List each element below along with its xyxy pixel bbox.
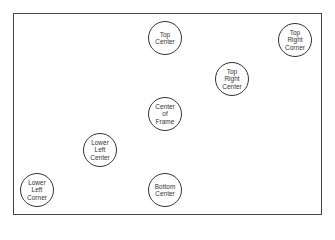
marker-label-line: Center — [155, 38, 175, 46]
marker-lower-left-corner: Lower Left Corner — [20, 173, 54, 207]
marker-label-line: Left — [32, 186, 43, 194]
marker-label-line: Top — [227, 68, 237, 76]
marker-center-of-frame: Center of Frame — [148, 97, 182, 131]
marker-label-line: Frame — [156, 118, 175, 126]
marker-bottom-center: Bottom Center — [148, 173, 182, 207]
marker-label-line: Corner — [27, 194, 47, 202]
marker-label-line: Top — [160, 31, 170, 39]
marker-label-line: Corner — [285, 44, 305, 52]
marker-lower-left-center: Lower Left Center — [83, 133, 117, 167]
marker-label-line: Right — [224, 75, 239, 83]
marker-top-right-corner: Top Right Corner — [278, 23, 312, 57]
marker-label-line: Bottom — [155, 183, 176, 191]
marker-label-line: Center — [155, 190, 175, 198]
marker-label-line: of — [162, 110, 167, 118]
marker-label-line: Top — [290, 29, 300, 37]
marker-label-line: Right — [287, 36, 302, 44]
marker-label-line: Left — [95, 146, 106, 154]
marker-label-line: Lower — [91, 139, 109, 147]
marker-label-line: Center — [90, 154, 110, 162]
marker-top-center: Top Center — [148, 21, 182, 55]
marker-label-line: Center — [155, 103, 175, 111]
marker-top-right-center: Top Right Center — [215, 62, 249, 96]
marker-label-line: Lower — [28, 179, 46, 187]
marker-label-line: Center — [222, 83, 242, 91]
